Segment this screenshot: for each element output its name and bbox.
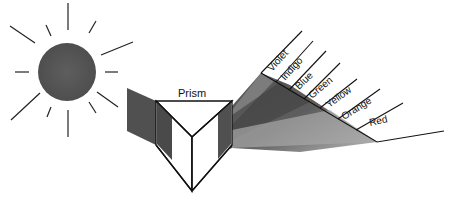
band-label-red: Red	[368, 113, 388, 128]
prism-label: Prism	[178, 87, 206, 99]
prism-dispersion-diagram: Prism Violet Indigo Blue Green Yellow Or…	[0, 0, 449, 202]
prism	[156, 101, 232, 191]
sun-icon	[10, 3, 133, 137]
